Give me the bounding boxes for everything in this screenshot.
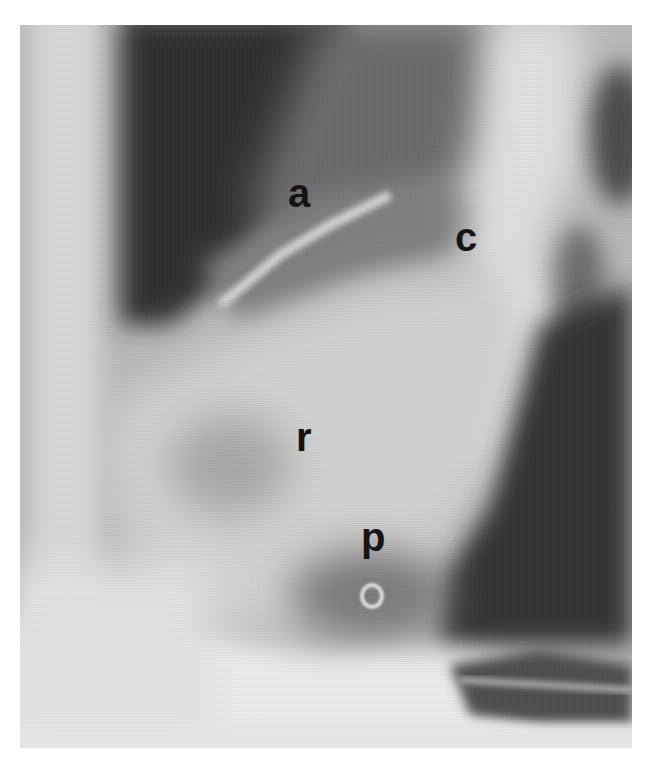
label-a: a bbox=[288, 173, 310, 213]
label-p: p bbox=[361, 517, 385, 557]
ring-marker bbox=[360, 583, 384, 609]
label-r: r bbox=[296, 417, 312, 457]
xray-shading bbox=[20, 25, 632, 748]
label-c: c bbox=[455, 217, 477, 257]
radiograph-image: a c r p bbox=[20, 25, 632, 748]
